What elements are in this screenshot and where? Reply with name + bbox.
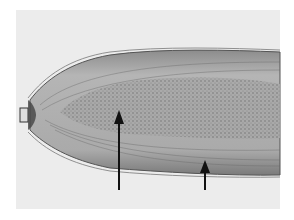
stoma <box>20 108 28 122</box>
specimen-micrograph <box>0 0 294 220</box>
